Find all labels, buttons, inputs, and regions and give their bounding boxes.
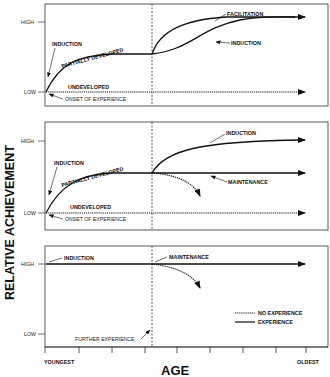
panel-1: HIGH LOW INDUCTION PARTIALLY DEVELOPED U… (21, 4, 328, 106)
panel-2-induction-left: INDUCTION (54, 160, 84, 166)
panel-1-facilitation: FACILITATION (227, 11, 263, 17)
panel-2-partially-developed: PARTIALLY DEVELOPED (61, 166, 124, 188)
panel-3-further-experience: FURTHER EXPERIENCE (75, 336, 135, 342)
panel-2: HIGH LOW INDUCTION PARTIALLY DEVELOPED U… (21, 122, 328, 230)
panel-3-high-label: HIGH (21, 261, 34, 267)
panel-2-undeveloped: UNDEVELOPED (70, 204, 111, 210)
x-axis: YOUNGEST OLDEST AGE (44, 347, 328, 377)
panel-1-partially-developed: PARTIALLY DEVELOPED (61, 47, 124, 69)
panel-1-low-label: LOW (24, 89, 36, 95)
panel-2-low-label: LOW (24, 210, 36, 216)
panel-3-low-label: LOW (24, 331, 36, 337)
panel-3: HIGH LOW INDUCTION MAINTENANCE FURTHER E… (21, 246, 328, 347)
legend-experience: EXPERIENCE (258, 319, 293, 325)
panel-1-induction-right: INDUCTION (231, 40, 261, 46)
panel-2-maintenance: MAINTENANCE (228, 179, 268, 185)
x-axis-start-label: YOUNGEST (44, 359, 75, 365)
panel-3-induction-left: INDUCTION (64, 255, 94, 261)
x-axis-title: AGE (161, 363, 190, 377)
legend-no-experience: NO EXPERIENCE (258, 310, 303, 316)
legend: NO EXPERIENCE EXPERIENCE (235, 310, 303, 325)
panel-1-undeveloped: UNDEVELOPED (68, 84, 109, 90)
panel-1-onset: ONSET OF EXPERIENCE (65, 96, 127, 102)
panel-3-maintenance: MAINTENANCE (169, 254, 209, 260)
panel-1-induction-left: INDUCTION (52, 41, 82, 47)
panel-2-onset: ONSET OF EXPERIENCE (65, 216, 127, 222)
x-axis-end-label: OLDEST (297, 359, 320, 365)
panel-2-induction-right: INDUCTION (226, 130, 256, 136)
panel-1-high-label: HIGH (21, 19, 34, 25)
figure-canvas: HIGH LOW INDUCTION PARTIALLY DEVELOPED U… (0, 0, 330, 377)
panel-2-high-label: HIGH (21, 138, 34, 144)
y-axis-title: RELATIVE ACHIEVEMENT (3, 145, 17, 300)
